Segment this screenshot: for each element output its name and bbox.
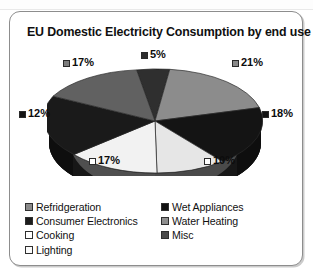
callout-swatch-refridgeration xyxy=(232,60,239,67)
callout-swatch-water-heating xyxy=(89,158,96,165)
legend-item-refridgeration[interactable]: Refridgeration xyxy=(25,200,138,214)
legend-label-water-heating: Water Heating xyxy=(172,215,238,227)
legend-item-consumer-electronics[interactable]: Consumer Electronics xyxy=(25,214,138,228)
legend-swatch-wet-appliances xyxy=(161,203,169,211)
legend-swatch-refridgeration xyxy=(25,203,33,211)
legend-swatch-cooking xyxy=(25,231,33,239)
top-clipped-edge xyxy=(0,0,313,10)
callout-swatch-cooking xyxy=(19,111,26,118)
legend-item-wet-appliances[interactable]: Wet Appliances xyxy=(161,200,243,214)
callout-misc: 5% xyxy=(141,49,166,60)
legend-item-cooking[interactable]: Cooking xyxy=(25,228,138,242)
callout-swatch-wet-appliances xyxy=(262,111,269,118)
legend-label-lighting: Lighting xyxy=(36,244,72,256)
legend-label-wet-appliances: Wet Appliances xyxy=(172,201,243,213)
legend-label-misc: Misc xyxy=(172,229,193,241)
legend-label-refridgeration: Refridgeration xyxy=(36,201,101,213)
chart-legend: Refridgeration Consumer Electronics Cook… xyxy=(23,200,293,258)
chart-card: EU Domestic Electricity Consumption by e… xyxy=(9,11,303,266)
legend-label-consumer-electronics: Consumer Electronics xyxy=(36,215,138,227)
legend-swatch-consumer-electronics xyxy=(25,217,33,225)
callout-wet-appliances: 18% xyxy=(262,108,293,119)
callout-swatch-misc xyxy=(141,52,148,59)
legend-swatch-lighting xyxy=(25,246,33,254)
legend-item-water-heating[interactable]: Water Heating xyxy=(161,214,243,228)
legend-column-right: Wet Appliances Water Heating Misc xyxy=(161,200,243,243)
callout-swatch-consumer-electronics xyxy=(204,158,211,165)
legend-item-lighting[interactable]: Lighting xyxy=(25,243,138,257)
legend-swatch-misc xyxy=(161,231,169,239)
callout-swatch-lighting xyxy=(63,60,70,67)
chart-title: EU Domestic Electricity Consumption by e… xyxy=(27,25,311,39)
callout-lighting: 17% xyxy=(63,57,94,68)
legend-label-cooking: Cooking xyxy=(36,229,74,241)
legend-item-misc[interactable]: Misc xyxy=(161,228,243,242)
legend-swatch-water-heating xyxy=(161,217,169,225)
pie-chart-plot-area: 5% 21% 18% 10% 17% 12% 17% xyxy=(10,48,304,196)
legend-column-left: Refridgeration Consumer Electronics Cook… xyxy=(25,200,138,257)
callout-water-heating: 17% xyxy=(89,155,120,166)
callout-consumer-electronics: 10% xyxy=(204,155,235,166)
callout-refridgeration: 21% xyxy=(232,57,263,68)
callout-cooking: 12% xyxy=(19,108,50,119)
